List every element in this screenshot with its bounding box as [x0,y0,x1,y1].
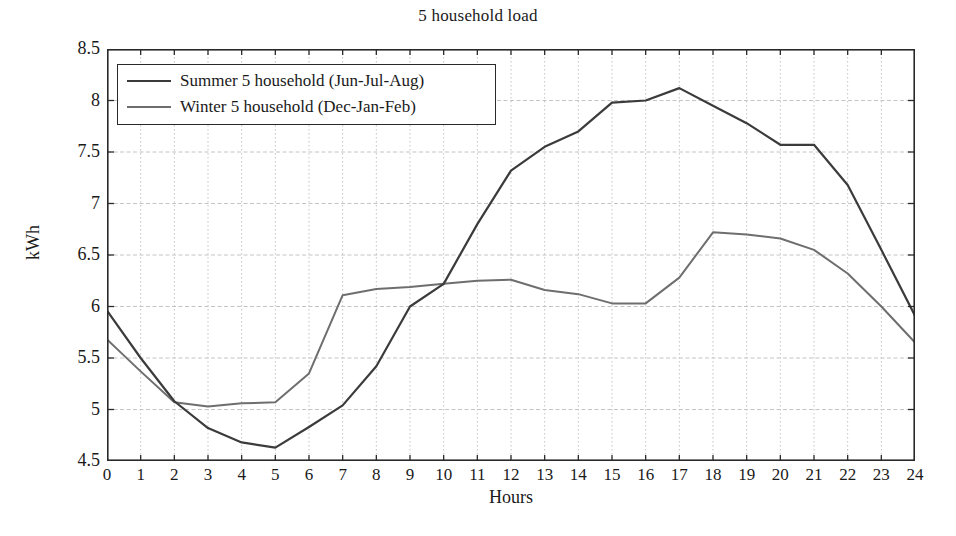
y-axis-tick-labels: 4.555.566.577.588.5 [36,49,100,461]
chart-figure: 5 household load kWh 4.555.566.577.588.5… [0,0,956,536]
x-tick-label: 24 [898,466,932,483]
y-tick-label: 5.5 [40,348,100,366]
x-tick-label: 20 [763,466,797,483]
x-tick-label: 8 [359,466,393,483]
x-tick-label: 3 [191,466,225,483]
x-tick-label: 12 [494,466,528,483]
x-tick-label: 4 [225,466,259,483]
x-tick-label: 6 [292,466,326,483]
x-tick-label: 19 [730,466,764,483]
page-margin [0,512,956,536]
x-axis-label: Hours [107,487,915,508]
legend-swatch-winter [127,106,171,108]
y-tick-label: 8.5 [40,39,100,57]
x-tick-label: 2 [157,466,191,483]
x-tick-label: 13 [528,466,562,483]
x-tick-label: 1 [124,466,158,483]
y-tick-label: 8 [40,91,100,109]
x-tick-label: 17 [662,466,696,483]
legend-item-summer: Summer 5 household (Jun-Jul-Aug) [127,68,424,94]
legend-item-winter: Winter 5 household (Dec-Jan-Feb) [127,94,416,120]
x-tick-label: 15 [595,466,629,483]
x-tick-label: 11 [460,466,494,483]
legend-label-summer: Summer 5 household (Jun-Jul-Aug) [180,71,424,91]
x-tick-label: 14 [561,466,595,483]
x-tick-label: 10 [427,466,461,483]
y-tick-label: 6.5 [40,245,100,263]
x-tick-label: 9 [393,466,427,483]
y-tick-label: 5 [40,400,100,418]
x-tick-label: 18 [696,466,730,483]
chart-legend: Summer 5 household (Jun-Jul-Aug) Winter … [117,64,496,125]
chart-title: 5 household load [0,6,956,26]
y-tick-label: 7.5 [40,142,100,160]
y-tick-label: 6 [40,297,100,315]
x-tick-label: 0 [90,466,124,483]
y-tick-label: 7 [40,194,100,212]
legend-swatch-summer [127,80,171,82]
x-tick-label: 23 [864,466,898,483]
x-tick-label: 5 [258,466,292,483]
legend-label-winter: Winter 5 household (Dec-Jan-Feb) [180,97,416,117]
x-tick-label: 22 [831,466,865,483]
x-tick-label: 16 [629,466,663,483]
x-axis-tick-labels: 0123456789101112131415161718192021222324 [107,464,915,488]
x-tick-label: 7 [326,466,360,483]
x-tick-label: 21 [797,466,831,483]
